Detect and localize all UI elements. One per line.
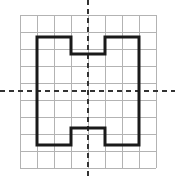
grid-figure-svg xyxy=(0,0,175,180)
figure-root xyxy=(0,0,175,180)
